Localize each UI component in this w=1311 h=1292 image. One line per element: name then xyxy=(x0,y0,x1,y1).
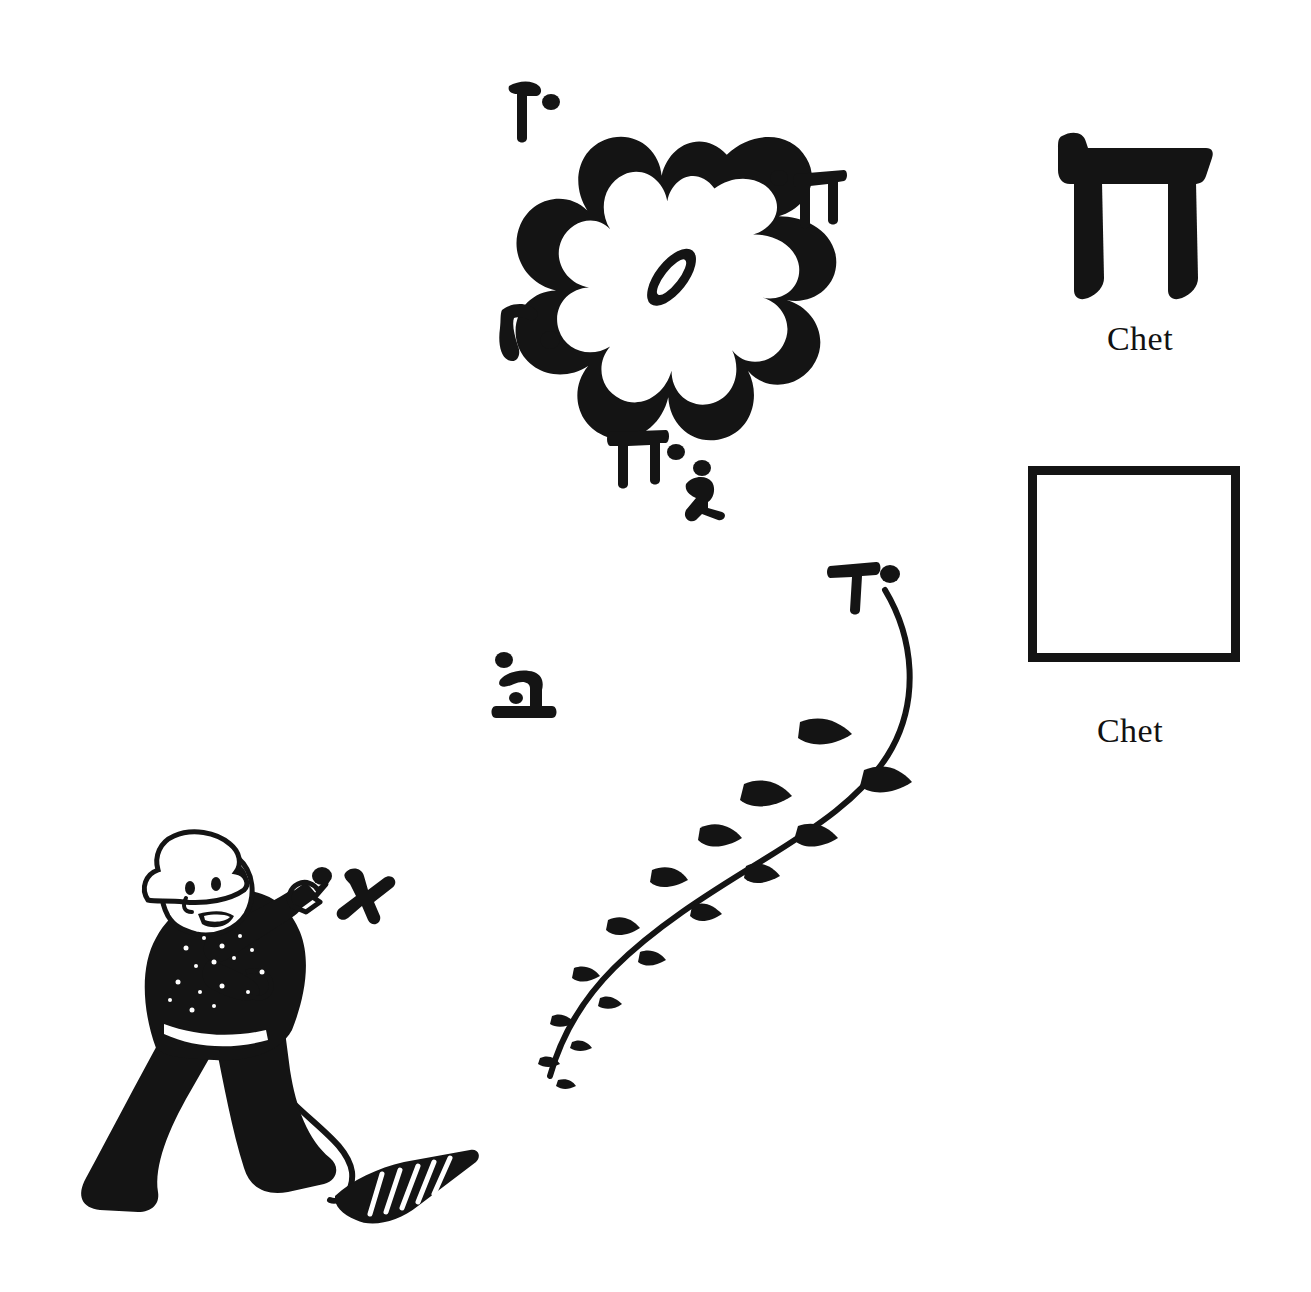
floating-letter-bet xyxy=(486,648,562,724)
kite-string-spool xyxy=(335,1150,479,1224)
floating-letter-resh xyxy=(494,298,568,368)
floating-letter-chet-1 xyxy=(768,162,848,232)
hebrew-letter-chet-glyph xyxy=(1040,128,1230,308)
illustration-kite-scene xyxy=(0,0,1000,1292)
kite-tail-bow-group xyxy=(538,718,912,1089)
floating-letter-dalet xyxy=(826,556,900,622)
floating-letter-gimel xyxy=(662,442,738,522)
floating-letter-vav xyxy=(497,76,567,146)
floating-letter-alef xyxy=(312,862,398,932)
empty-tracing-square[interactable] xyxy=(1028,466,1240,662)
trace-box-label: Chet xyxy=(1030,712,1230,750)
boy-with-hat-flying-kite xyxy=(81,832,336,1212)
letter-specimen-label: Chet xyxy=(1040,320,1240,358)
worksheet-page: Chet Chet xyxy=(0,0,1311,1292)
